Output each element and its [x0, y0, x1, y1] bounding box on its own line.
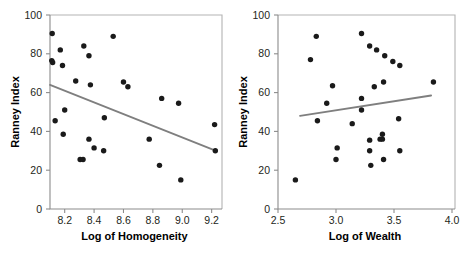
data-point	[382, 53, 387, 58]
data-point	[315, 118, 320, 123]
data-point	[381, 79, 386, 84]
y-tick-label: 80	[258, 47, 270, 59]
data-point	[314, 34, 319, 39]
y-tick-label: 60	[258, 86, 270, 98]
data-point	[359, 96, 364, 101]
data-point	[367, 43, 372, 48]
y-tick-label: 20	[258, 164, 270, 176]
y-tick-label: 0	[264, 203, 270, 215]
data-point	[368, 163, 373, 168]
data-point	[397, 148, 402, 153]
y-tick-label: 100	[252, 9, 270, 21]
data-point	[324, 101, 329, 106]
x-tick-label: 2.5	[271, 214, 286, 226]
data-point	[396, 116, 401, 121]
y-axis-title: Ranney Index	[237, 75, 249, 147]
scatter-panel-2: 0204060801002.53.03.54.0Log of WealthRan…	[0, 0, 473, 259]
data-point	[334, 145, 339, 150]
x-tick-label: 3.5	[387, 214, 402, 226]
data-point	[431, 79, 436, 84]
data-point	[397, 63, 402, 68]
y-axis: 020406080100	[252, 9, 278, 215]
y-tick-label: 40	[258, 125, 270, 137]
x-tick-label: 3.0	[329, 214, 344, 226]
data-point	[359, 107, 364, 112]
data-point	[330, 83, 335, 88]
data-point	[372, 84, 377, 89]
data-point	[380, 136, 385, 141]
data-point	[367, 137, 372, 142]
data-point	[381, 157, 386, 162]
data-point	[350, 121, 355, 126]
data-point	[390, 59, 395, 64]
plot-frame	[278, 15, 455, 209]
data-point	[293, 177, 298, 182]
figure-container: 0204060801008.28.48.68.89.09.2Log of Hom…	[0, 0, 473, 259]
data-point	[367, 148, 372, 153]
data-point	[374, 47, 379, 52]
x-axis-title: Log of Wealth	[329, 230, 402, 242]
regression-line	[300, 96, 431, 116]
x-tick-label: 4.0	[445, 214, 460, 226]
data-point	[308, 57, 313, 62]
x-axis: 2.53.03.54.0	[271, 209, 460, 226]
plot-axes	[278, 15, 455, 209]
data-point	[333, 157, 338, 162]
data-point	[380, 132, 385, 137]
data-point	[359, 31, 364, 36]
